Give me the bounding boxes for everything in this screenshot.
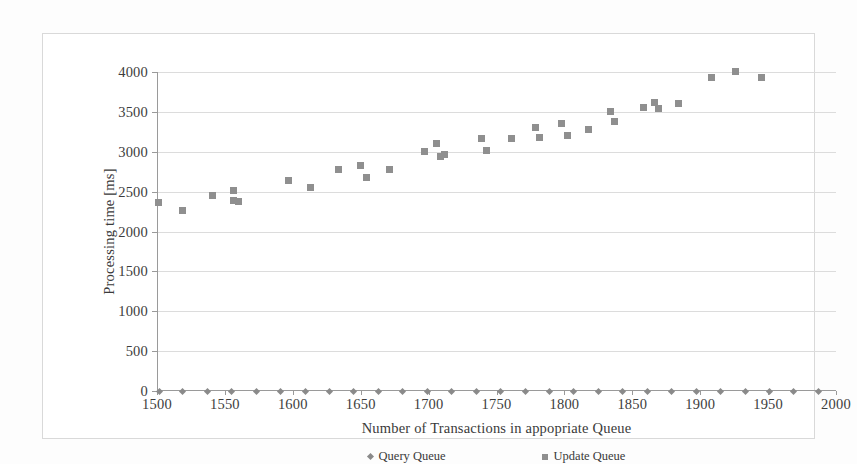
- data-point: [156, 387, 163, 394]
- x-axis-title: Number of Transactions in appopriate Que…: [157, 420, 836, 437]
- y-tick-label: 500: [126, 343, 148, 360]
- x-tick-mark: [632, 391, 633, 395]
- chart-legend: Query Queue Update Queue: [157, 449, 836, 464]
- chart-frame: 05001000150020002500300035004000 1500155…: [42, 33, 815, 439]
- x-tick-mark: [700, 391, 701, 395]
- data-point: [307, 184, 314, 191]
- data-point: [790, 387, 797, 394]
- data-point: [441, 151, 448, 158]
- data-point: [717, 387, 724, 394]
- data-point: [675, 100, 682, 107]
- gridline: [157, 271, 836, 272]
- x-tick-mark: [836, 391, 837, 395]
- data-point: [399, 387, 406, 394]
- x-tick-label: 1550: [210, 396, 240, 413]
- x-axis-title-text: Number of Transactions in appopriate Que…: [362, 420, 632, 436]
- data-point: [179, 387, 186, 394]
- x-tick-mark: [225, 391, 226, 395]
- data-point: [595, 387, 602, 394]
- legend-item-query-queue[interactable]: Query Queue: [368, 449, 446, 464]
- y-tick-label: 4000: [118, 64, 148, 81]
- data-point: [497, 387, 504, 394]
- x-tick-label: 1750: [482, 396, 512, 413]
- y-tick-label: 3500: [118, 103, 148, 120]
- data-point: [532, 124, 539, 131]
- x-tick-mark: [564, 391, 565, 395]
- data-point: [668, 387, 675, 394]
- data-point: [708, 74, 715, 81]
- data-point: [741, 387, 748, 394]
- gridline: [157, 351, 836, 352]
- data-point: [424, 387, 431, 394]
- x-tick-label: 1800: [549, 396, 579, 413]
- data-point: [815, 387, 822, 394]
- data-point: [230, 187, 237, 194]
- gridline: [157, 192, 836, 193]
- y-tick-mark: [152, 112, 157, 113]
- x-tick-mark: [293, 391, 294, 395]
- data-point: [546, 387, 553, 394]
- data-point: [521, 387, 528, 394]
- data-point: [644, 387, 651, 394]
- x-tick-label: 2000: [821, 396, 851, 413]
- data-point: [350, 387, 357, 394]
- y-tick-mark: [152, 351, 157, 352]
- data-point: [277, 387, 284, 394]
- y-axis-title: Processing time [ms]: [99, 72, 119, 391]
- gridline: [157, 311, 836, 312]
- x-tick-label: 1600: [278, 396, 308, 413]
- data-point: [607, 108, 614, 115]
- x-tick-label: 1850: [617, 396, 647, 413]
- data-point: [235, 198, 242, 205]
- y-axis-title-text: Processing time [ms]: [101, 168, 118, 294]
- data-point: [285, 177, 292, 184]
- plot-area: 05001000150020002500300035004000 1500155…: [157, 72, 836, 391]
- y-tick-mark: [152, 152, 157, 153]
- gridline: [157, 152, 836, 153]
- data-point: [536, 134, 543, 141]
- x-tick-label: 1900: [685, 396, 715, 413]
- data-point: [204, 387, 211, 394]
- data-point: [508, 135, 515, 142]
- data-point: [209, 192, 216, 199]
- y-tick-label: 1000: [118, 303, 148, 320]
- data-point: [564, 132, 571, 139]
- data-point: [570, 387, 577, 394]
- y-tick-mark: [152, 192, 157, 193]
- y-tick-label: 1500: [118, 263, 148, 280]
- data-point: [357, 162, 364, 169]
- data-point: [558, 120, 565, 127]
- x-tick-label: 1650: [346, 396, 376, 413]
- data-point: [483, 147, 490, 154]
- y-axis-line: [157, 72, 158, 391]
- data-point: [766, 387, 773, 394]
- data-point: [335, 166, 342, 173]
- y-tick-label: 3000: [118, 143, 148, 160]
- legend-label-update-queue: Update Queue: [554, 449, 626, 464]
- data-point: [619, 387, 626, 394]
- data-point: [473, 387, 480, 394]
- data-point: [611, 118, 618, 125]
- data-point: [179, 207, 186, 214]
- legend-item-update-queue[interactable]: Update Queue: [542, 449, 626, 464]
- diamond-marker-icon: [367, 453, 374, 460]
- x-tick-mark: [361, 391, 362, 395]
- legend-label-query-queue: Query Queue: [379, 449, 446, 464]
- data-point: [253, 387, 260, 394]
- data-point: [155, 199, 162, 206]
- data-point: [732, 68, 739, 75]
- x-tick-label: 1700: [414, 396, 444, 413]
- data-point: [693, 387, 700, 394]
- data-point: [640, 104, 647, 111]
- x-tick-label: 1950: [753, 396, 783, 413]
- gridline: [157, 232, 836, 233]
- data-point: [478, 135, 485, 142]
- y-tick-label: 2500: [118, 183, 148, 200]
- data-point: [655, 105, 662, 112]
- gridline: [157, 112, 836, 113]
- data-point: [363, 174, 370, 181]
- y-tick-mark: [152, 72, 157, 73]
- data-point: [375, 387, 382, 394]
- data-point: [585, 126, 592, 133]
- data-point: [326, 387, 333, 394]
